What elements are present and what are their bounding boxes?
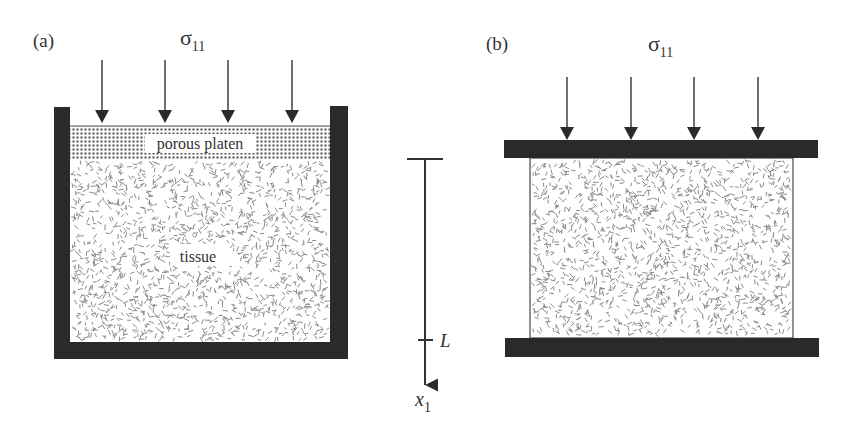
chamber-left-wall xyxy=(54,107,70,359)
panel-b-tissue xyxy=(530,158,793,338)
sigma-subscript: 11 xyxy=(660,45,673,60)
panel-a: (a) σ11 porous platen tissue xyxy=(33,25,348,359)
panel-b-load-arrows xyxy=(560,77,765,140)
chamber-bottom xyxy=(54,342,348,359)
load-arrow-head-icon xyxy=(285,110,299,123)
panel-a-load-arrows xyxy=(95,60,299,123)
axis-variable-label: x1 xyxy=(414,388,431,415)
top-plate xyxy=(504,140,818,158)
panel-b-load-label: σ11 xyxy=(648,31,673,60)
sigma-symbol: σ xyxy=(648,31,660,56)
sigma-symbol: σ xyxy=(180,25,192,50)
tissue-label: tissue xyxy=(180,248,216,265)
chamber-right-wall xyxy=(330,106,348,359)
panel-a-label: (a) xyxy=(33,30,54,52)
load-arrow-head-icon xyxy=(751,127,765,140)
load-arrow-head-icon xyxy=(221,110,235,123)
load-arrow-head-icon xyxy=(95,110,109,123)
bottom-plate xyxy=(505,338,819,357)
axis-variable-subscript: 1 xyxy=(424,400,431,415)
axis-variable: x xyxy=(414,388,424,410)
panel-b-label: (b) xyxy=(486,33,508,55)
x1-axis: L x1 xyxy=(407,159,451,415)
load-arrow-head-icon xyxy=(687,127,701,140)
compression-diagram: (a) σ11 porous platen tissue L x1 (b) σ1… xyxy=(0,0,857,429)
load-arrow-head-icon xyxy=(624,127,638,140)
platen-label: porous platen xyxy=(157,135,244,153)
load-arrow-head-icon xyxy=(158,110,172,123)
load-arrow-head-icon xyxy=(560,127,574,140)
sigma-subscript: 11 xyxy=(192,39,205,54)
axis-l-label: L xyxy=(439,330,451,351)
panel-b: (b) σ11 xyxy=(486,31,819,357)
panel-a-load-label: σ11 xyxy=(180,25,205,54)
